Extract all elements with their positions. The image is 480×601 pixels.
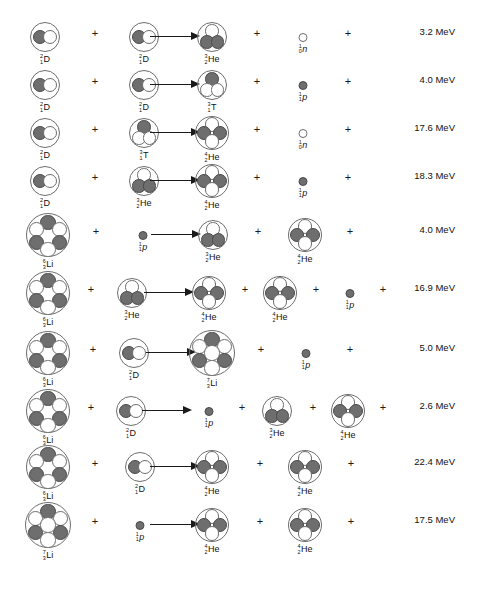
species-p: 11p [346,270,355,311]
nuclide-az-numbers: 63 [43,259,46,270]
proton-dot [211,35,225,49]
atomic-number: 2 [204,492,207,498]
nuclide-az-numbers: 73 [43,550,46,561]
neutron-dot [204,360,219,375]
nuclide-az-numbers: 11 [139,242,142,253]
species-he3-label: 32He [124,310,139,321]
element-symbol: D [139,485,146,494]
plus-operator: + [345,28,351,39]
nuclide-az-numbers: 11 [136,532,139,543]
arrow-shaft [142,410,186,411]
nucleus-icon [197,70,227,100]
neutron-dot [299,129,308,138]
nucleus-icon [30,70,60,100]
reaction-row: 63Li+11p32He+42He+4.0 MeV [0,212,480,270]
species-li6: 63Li [26,330,70,388]
nucleus-icon [25,502,71,548]
species-he4: 42He [195,502,229,555]
arrow-shaft [146,352,190,353]
species-he4: 42He [263,270,297,323]
nuclide-az-numbers: 42 [201,312,204,323]
species-he4: 42He [331,388,365,441]
proton-dot [299,81,308,90]
element-symbol: p [208,419,213,428]
element-symbol: He [273,429,285,438]
atomic-number: 2 [297,550,300,556]
element-symbol: Li [46,551,53,560]
nucleus-icon [198,220,228,250]
reaction-energy-value: 4.0 MeV [420,224,455,235]
element-symbol: He [205,313,217,322]
neutron-dot [298,236,313,251]
plus-operator: + [92,76,98,87]
plus-operator: + [254,124,260,135]
element-symbol: D [130,429,137,438]
arrow-shaft [150,132,194,133]
plus-operator: + [239,402,245,413]
element-symbol: n [302,141,307,150]
proton-dot [276,409,290,423]
species-p-label: 11p [346,300,355,311]
species-p-label: 11p [139,242,148,253]
neutron-dot [273,294,288,309]
element-symbol: Li [210,379,217,388]
nucleus-icon [197,22,227,52]
nuclide-az-numbers: 32 [269,428,272,439]
nuclide-az-numbers: 63 [43,317,46,328]
nucleus-icon [119,338,149,368]
free-proton-icon [136,521,145,530]
fusion-reaction-chart: 21D+21D32He+10n+3.2 MeV21D+21D31T+11p+4.… [0,0,480,601]
element-symbol: He [208,201,220,210]
species-n: 10n [299,110,308,151]
free-proton-icon [139,231,148,240]
plus-operator: + [345,76,351,87]
nuclide-az-numbers: 11 [205,418,208,429]
atomic-number: 0 [299,49,302,55]
nuclide-az-numbers: 63 [43,491,46,502]
atomic-number: 1 [299,193,302,199]
plus-operator: + [348,458,354,469]
species-he4: 42He [192,270,226,323]
species-t: 31T [197,62,227,113]
species-p-label: 11p [205,418,214,429]
element-symbol: Li [46,260,53,269]
atomic-number: 1 [205,423,208,429]
species-li6: 63Li [26,212,70,270]
element-symbol: p [142,243,147,252]
nuclide-az-numbers: 11 [299,92,302,103]
species-he3-label: 32He [136,198,151,209]
atomic-number: 1 [139,247,142,253]
plus-operator: + [92,28,98,39]
species-he4-label: 42He [204,486,219,497]
nuclide-az-numbers: 32 [205,252,208,263]
species-he4-label: 42He [272,312,287,323]
species-d: 21D [119,330,149,381]
nuclide-az-numbers: 42 [297,544,300,555]
free-proton-icon [205,407,214,416]
element-symbol: p [349,301,354,310]
plus-operator: + [347,226,353,237]
species-d: 21D [30,62,60,113]
species-li6-label: 63Li [43,259,54,270]
neutron-dot [202,294,217,309]
element-symbol: p [305,361,310,370]
nucleus-icon [26,213,70,257]
plus-operator: + [90,344,96,355]
nucleus-icon [117,278,147,308]
neutron-dot [40,360,55,375]
plus-operator: + [88,402,94,413]
reaction-row: 73Li+11p42He+42He+17.5 MeV [0,502,480,560]
neutron-dot [204,345,219,360]
reaction-arrow-icon [150,80,202,89]
free-proton-icon [302,349,311,358]
free-neutron-icon [299,33,308,42]
nucleus-icon [26,445,70,489]
plus-operator: + [380,284,386,295]
species-p: 11p [136,502,145,543]
nuclide-az-numbers: 42 [297,486,300,497]
plus-operator: + [93,226,99,237]
species-he4: 42He [288,212,322,265]
element-symbol: n [302,45,307,54]
nucleus-icon [26,271,70,315]
species-d: 21D [30,158,60,209]
